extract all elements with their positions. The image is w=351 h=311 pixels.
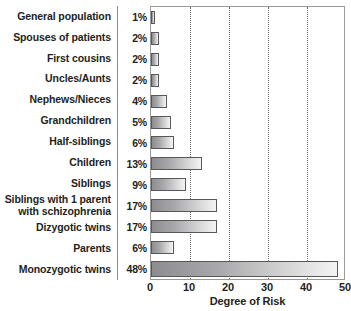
category-label: Parents [73,243,111,255]
bar-row [151,216,344,237]
bar [151,53,159,66]
x-tick-label: 20 [222,281,234,293]
category-label-row: Siblings [0,173,117,194]
percent-value-row: 4% [118,90,149,111]
category-label-row: Half-siblings [0,132,117,153]
percent-value: 17% [127,221,147,233]
bar [151,116,171,129]
percent-value: 4% [132,95,147,107]
category-label: Monozygotic twins [19,264,111,276]
category-label-row: First cousins [0,48,117,69]
bar-row [151,153,344,174]
bar [151,199,217,212]
percent-value-row: 6% [118,238,149,259]
percent-value-row: 17% [118,196,149,217]
category-label: Children [69,157,111,169]
percent-value: 1% [132,11,147,23]
percent-value: 2% [132,32,147,44]
percent-value-row: 1% [118,6,149,27]
bar [151,261,338,277]
bar-series [151,7,344,279]
category-label: Grandchildren [41,115,111,127]
category-label-row: Dizygotic twins [0,217,117,238]
bar-row [151,258,344,279]
plot-area [150,6,345,280]
risk-bar-chart: General populationSpouses of patientsFir… [0,0,351,311]
bar-row [151,70,344,91]
category-label: Uncles/Aunts [45,73,111,85]
percent-value-row: 2% [118,27,149,48]
bar-row [151,112,344,133]
category-label: Nephews/Nieces [30,94,111,106]
bar-row [151,49,344,70]
x-tick-label: 50 [339,281,351,293]
category-label: Siblings [71,178,111,190]
bar-row [151,91,344,112]
bar [151,241,174,254]
bar [151,32,159,45]
category-label-row: Children [0,152,117,173]
percent-value-row: 48% [118,259,149,280]
x-tick-label: 0 [147,281,153,293]
percent-value-row: 17% [118,217,149,238]
percent-value-row: 2% [118,48,149,69]
bar-row [151,195,344,216]
x-axis-title: Degree of Risk [150,295,345,307]
category-label: Half-siblings [49,136,111,148]
category-label-row: Siblings with 1 parent with schizophreni… [0,194,117,217]
category-label: Dizygotic twins [36,222,111,234]
percent-value: 2% [132,74,147,86]
percent-value: 48% [127,263,147,275]
percent-value-row: 9% [118,175,149,196]
bar [151,178,186,191]
bar [151,136,174,149]
category-label: Spouses of patients [13,32,111,44]
category-label: Siblings with 1 parent with schizophreni… [5,194,111,217]
category-label: First cousins [47,53,111,65]
category-label-row: Nephews/Nieces [0,90,117,111]
bar-row [151,237,344,258]
bar [151,157,202,170]
percent-value: 17% [127,200,147,212]
percent-value: 6% [132,137,147,149]
bar [151,95,167,108]
percent-value-column: 1%2%2%2%4%5%6%13%9%17%17%6%48% [118,6,149,280]
category-label-row: General population [0,6,117,27]
x-tick-label: 10 [183,281,195,293]
percent-value: 2% [132,53,147,65]
percent-value-row: 6% [118,132,149,153]
category-label-row: Monozygotic twins [0,259,117,280]
bar-row [151,28,344,49]
bar [151,74,159,87]
bar [151,220,217,233]
percent-value: 6% [132,242,147,254]
percent-value: 5% [132,116,147,128]
bar-row [151,133,344,154]
category-label-row: Grandchildren [0,111,117,132]
category-label-row: Parents [0,238,117,259]
percent-value-row: 13% [118,154,149,175]
category-label-column: General populationSpouses of patientsFir… [0,6,117,280]
percent-value-row: 5% [118,111,149,132]
category-label: General population [17,11,111,23]
bar-row [151,7,344,28]
bar-row [151,174,344,195]
percent-value-row: 2% [118,69,149,90]
x-tick-label: 30 [261,281,273,293]
percent-value: 9% [132,179,147,191]
percent-value: 13% [127,158,147,170]
bar [151,11,155,24]
category-label-row: Spouses of patients [0,27,117,48]
x-tick-label: 40 [300,281,312,293]
category-label-row: Uncles/Aunts [0,69,117,90]
